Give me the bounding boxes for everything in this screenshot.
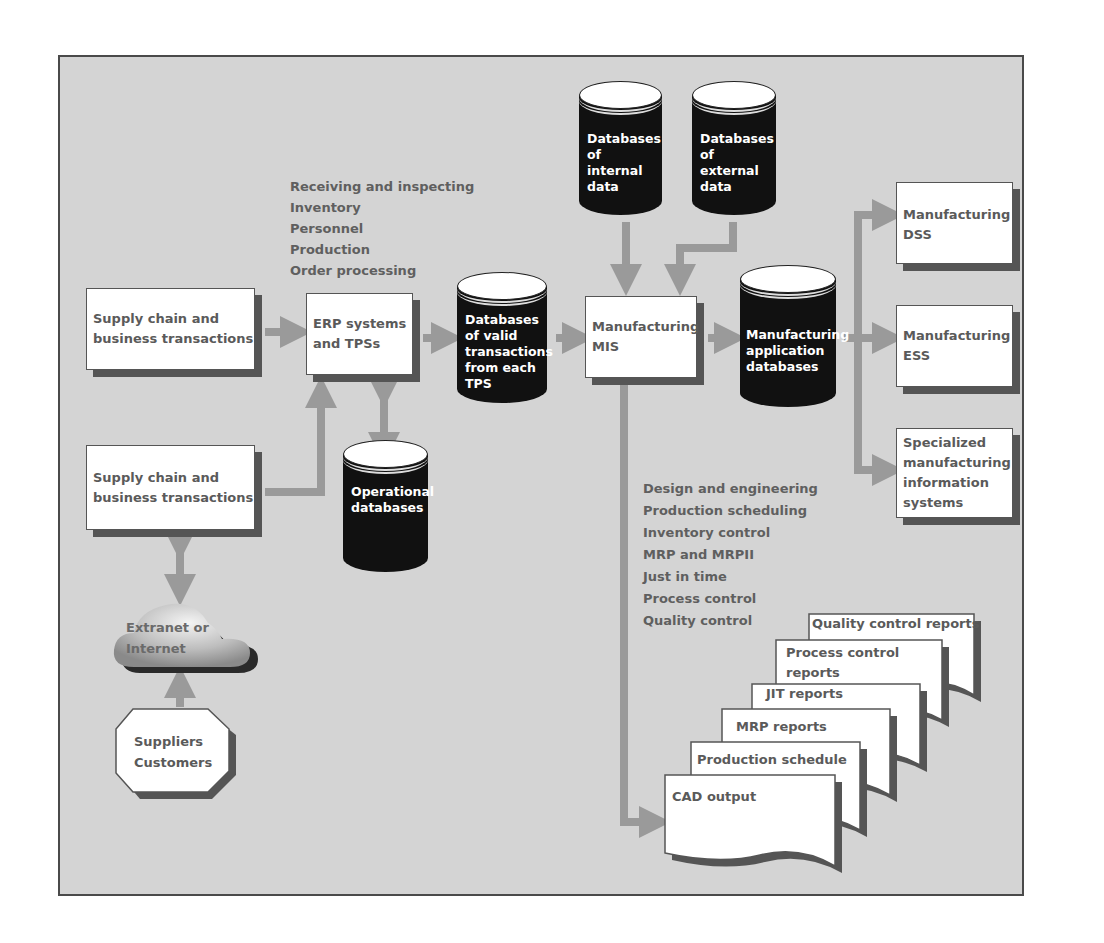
supply-chain-box-2: Supply chain and business transactions: [86, 445, 255, 530]
report-label: reports: [786, 663, 899, 683]
report-label: Production schedule: [697, 750, 847, 770]
cloud-label-line: Extranet or: [126, 617, 209, 638]
supply-chain-box-1: Supply chain and business transactions: [86, 288, 255, 370]
supply-chain-2-line-1: Supply chain and: [93, 468, 248, 488]
mis-function: Design and engineering: [643, 478, 818, 500]
arrow-supply2-to-erp: [265, 392, 321, 492]
mis-function: MRP and MRPII: [643, 544, 818, 566]
erp-line-1: ERP systems: [313, 314, 406, 334]
db-label-line: of: [700, 147, 774, 163]
database-top-icon: [457, 272, 547, 300]
erp-function: Receiving and inspecting: [290, 176, 474, 197]
mis-function: Process control: [643, 588, 818, 610]
specialized-line-2: manufacturing: [903, 453, 1006, 473]
erp-function: Order processing: [290, 260, 474, 281]
mis-function: Quality control: [643, 610, 818, 632]
erp-function: Inventory: [290, 197, 474, 218]
extranet-internet-cloud: Extranet or Internet: [110, 595, 257, 672]
db-label-line: of: [587, 147, 661, 163]
db-label-line: Manufacturing: [746, 327, 849, 343]
supply-chain-1-line-2: business transactions: [93, 329, 248, 349]
database-manufacturing-application: Manufacturing application databases: [740, 265, 836, 407]
erp-systems-box: ERP systems and TPSs: [306, 293, 413, 375]
db-label-line: transactions: [465, 344, 553, 360]
erp-functions-list: Receiving and inspecting Inventory Perso…: [290, 176, 474, 281]
erp-function: Personnel: [290, 218, 474, 239]
db-label-line: from each: [465, 360, 553, 376]
supply-chain-2-line-2: business transactions: [93, 488, 248, 508]
specialized-line-3: information: [903, 473, 1006, 493]
mis-line-1: Manufacturing: [592, 317, 690, 337]
mis-functions-list: Design and engineering Production schedu…: [643, 478, 818, 632]
erp-line-2: and TPSs: [313, 334, 406, 354]
db-label-line: Operational: [351, 484, 434, 500]
ess-line-2: ESS: [903, 346, 1006, 366]
db-label-line: internal: [587, 163, 661, 179]
database-top-icon: [692, 81, 776, 109]
db-label-line: data: [587, 179, 661, 195]
db-label-line: databases: [351, 500, 434, 516]
suppliers-label: Suppliers: [134, 731, 212, 752]
report-label: CAD output: [672, 787, 756, 807]
database-internal-data: Databases of internal data: [579, 81, 662, 215]
specialized-systems-box: Specialized manufacturing information sy…: [896, 428, 1013, 518]
report-label: MRP reports: [736, 717, 827, 737]
manufacturing-mis-box: Manufacturing MIS: [585, 296, 697, 378]
database-top-icon: [740, 265, 836, 293]
db-label-line: application: [746, 343, 849, 359]
manufacturing-ess-box: Manufacturing ESS: [896, 305, 1013, 387]
specialized-line-1: Specialized: [903, 433, 1006, 453]
dss-line-1: Manufacturing: [903, 205, 1006, 225]
database-external-data: Databases of external data: [692, 81, 776, 215]
db-label-line: data: [700, 179, 774, 195]
report-cad-output: CAD output: [665, 775, 835, 866]
db-label-line: Databases: [587, 131, 661, 147]
cloud-label-line: Internet: [126, 638, 209, 659]
db-label-line: databases: [746, 359, 849, 375]
db-label-line: external: [700, 163, 774, 179]
specialized-line-4: systems: [903, 493, 1006, 513]
database-top-icon: [343, 440, 428, 468]
db-label-line: Databases: [700, 131, 774, 147]
db-label-line: TPS: [465, 376, 553, 392]
db-label-line: Databases: [465, 312, 553, 328]
database-valid-transactions: Databases of valid transactions from eac…: [457, 272, 547, 403]
arrow-external-to-mis: [680, 222, 733, 280]
mis-function: Just in time: [643, 566, 818, 588]
supply-chain-1-line-1: Supply chain and: [93, 309, 248, 329]
suppliers-customers-node: Suppliers Customers: [116, 709, 229, 792]
mis-function: Inventory control: [643, 522, 818, 544]
arrow-branch-specialized: [858, 440, 888, 470]
mis-function: Production scheduling: [643, 500, 818, 522]
manufacturing-dss-box: Manufacturing DSS: [896, 182, 1013, 264]
mis-line-2: MIS: [592, 337, 690, 357]
ess-line-1: Manufacturing: [903, 326, 1006, 346]
report-label: Quality control reports: [812, 614, 979, 634]
database-operational: Operational databases: [343, 440, 428, 572]
dss-line-2: DSS: [903, 225, 1006, 245]
customers-label: Customers: [134, 752, 212, 773]
erp-function: Production: [290, 239, 474, 260]
report-label: JIT reports: [766, 684, 843, 704]
database-top-icon: [579, 81, 662, 109]
report-label: Process control: [786, 643, 899, 663]
db-label-line: of valid: [465, 328, 553, 344]
